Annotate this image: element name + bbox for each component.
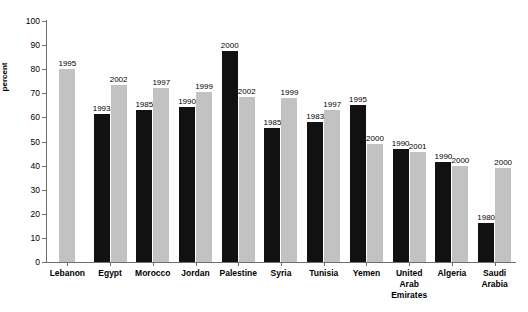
x-axis-category-label: Lebanon bbox=[46, 268, 89, 279]
bar-item[interactable]: 1990 bbox=[435, 21, 451, 262]
bar[interactable] bbox=[239, 97, 255, 262]
y-axis-tick-label: 70 bbox=[0, 88, 40, 98]
x-axis-category-label: Yemen bbox=[345, 268, 388, 279]
x-axis-category-label: Algeria bbox=[431, 268, 474, 279]
bar-group-bars: 20002002 bbox=[217, 21, 260, 262]
bar[interactable] bbox=[495, 168, 511, 262]
plot-area: 0102030405060708090100199519932002198519… bbox=[46, 21, 516, 262]
bar-group-bars: 19902001 bbox=[388, 21, 431, 262]
bar-item[interactable]: 2000 bbox=[452, 21, 468, 262]
x-axis-tick-mark bbox=[452, 262, 453, 266]
bar-group: 19902001 bbox=[388, 21, 431, 262]
bar-item[interactable]: 1993 bbox=[94, 21, 110, 262]
x-axis-category-label-line: United bbox=[388, 268, 431, 279]
bar-group-bars: 19902000 bbox=[431, 21, 474, 262]
x-axis-tick-mark bbox=[153, 262, 154, 266]
bar[interactable] bbox=[111, 85, 127, 262]
y-axis-tick-label: 80 bbox=[0, 64, 40, 74]
bar-year-label: 2002 bbox=[238, 87, 256, 96]
bar-year-label: 1997 bbox=[152, 78, 170, 87]
bar[interactable] bbox=[136, 110, 152, 262]
bar-item[interactable]: 2000 bbox=[367, 21, 383, 262]
y-axis-tick-label: 40 bbox=[0, 161, 40, 171]
bar-year-label: 1995 bbox=[349, 95, 367, 104]
bar[interactable] bbox=[179, 107, 195, 262]
bar-group: 19952000 bbox=[345, 21, 388, 262]
x-axis-tick-mark bbox=[281, 262, 282, 266]
x-axis-category-label: Morocco bbox=[131, 268, 174, 279]
y-axis-tick-label: 30 bbox=[0, 185, 40, 195]
bar-chart: percent 01020304050607080901001995199320… bbox=[0, 0, 528, 312]
x-axis-tick-mark bbox=[67, 262, 68, 266]
bar-year-label: 1993 bbox=[93, 104, 111, 113]
bar[interactable] bbox=[410, 152, 426, 262]
bar-item[interactable]: 2001 bbox=[410, 21, 426, 262]
x-axis-tick-mark bbox=[110, 262, 111, 266]
bar-year-label: 1990 bbox=[392, 139, 410, 148]
x-axis-category-label-line: Tunisia bbox=[302, 268, 345, 279]
bar-group: 19851999 bbox=[260, 21, 303, 262]
x-axis-category-label: SaudiArabia bbox=[473, 268, 516, 290]
bar-item[interactable]: 1995 bbox=[350, 21, 366, 262]
bar-item[interactable]: 2002 bbox=[111, 21, 127, 262]
bar-item[interactable]: 1997 bbox=[153, 21, 169, 262]
bar[interactable] bbox=[393, 149, 409, 262]
x-axis-category-label-line: Emirates bbox=[388, 290, 431, 301]
bar-group: 19901999 bbox=[174, 21, 217, 262]
bar[interactable] bbox=[324, 110, 340, 262]
bar-item[interactable]: 1999 bbox=[196, 21, 212, 262]
y-axis-tick-label: 50 bbox=[0, 137, 40, 147]
x-axis-tick-mark bbox=[238, 262, 239, 266]
bar-item[interactable]: 1997 bbox=[324, 21, 340, 262]
bar[interactable] bbox=[94, 114, 110, 262]
bar-year-label: 1980 bbox=[477, 213, 495, 222]
bar-year-label: 2000 bbox=[494, 158, 512, 167]
bar-year-label: 1995 bbox=[58, 59, 76, 68]
bar-item[interactable]: 1985 bbox=[136, 21, 152, 262]
x-axis-category-label-line: Jordan bbox=[174, 268, 217, 279]
x-axis-tick-mark bbox=[409, 262, 410, 266]
bar[interactable] bbox=[350, 105, 366, 262]
bar-item[interactable]: 2002 bbox=[239, 21, 255, 262]
x-axis-category-label: UnitedArabEmirates bbox=[388, 268, 431, 301]
bar[interactable] bbox=[222, 51, 238, 262]
y-axis-tick-label: 60 bbox=[0, 112, 40, 122]
bar-item[interactable]: 1990 bbox=[179, 21, 195, 262]
bar-item[interactable]: 1985 bbox=[264, 21, 280, 262]
bar-item[interactable]: 1980 bbox=[478, 21, 494, 262]
bar-year-label: 1983 bbox=[306, 112, 324, 121]
bar[interactable] bbox=[59, 69, 75, 262]
y-axis-tick-label: 10 bbox=[0, 233, 40, 243]
bar[interactable] bbox=[196, 92, 212, 262]
x-axis-category-label: Palestine bbox=[217, 268, 260, 279]
bar[interactable] bbox=[307, 122, 323, 262]
x-axis-category-label: Egypt bbox=[89, 268, 132, 279]
x-axis-category-label-line: Yemen bbox=[345, 268, 388, 279]
x-axis-category-label: Tunisia bbox=[302, 268, 345, 279]
bar-group: 19802000 bbox=[473, 21, 516, 262]
bar-item[interactable]: 1983 bbox=[307, 21, 323, 262]
x-axis-category-label-line: Morocco bbox=[131, 268, 174, 279]
y-axis-tick-label: 20 bbox=[0, 209, 40, 219]
bar-group-bars: 19901999 bbox=[174, 21, 217, 262]
bar-item[interactable]: 2000 bbox=[495, 21, 511, 262]
bar-item[interactable]: 2000 bbox=[222, 21, 238, 262]
bar[interactable] bbox=[478, 223, 494, 262]
bar-group-bars: 19952000 bbox=[345, 21, 388, 262]
x-axis-category-label-line: Algeria bbox=[431, 268, 474, 279]
bar[interactable] bbox=[452, 166, 468, 262]
bar[interactable] bbox=[435, 162, 451, 262]
bar[interactable] bbox=[153, 88, 169, 262]
bar-item[interactable]: 1999 bbox=[281, 21, 297, 262]
bar-year-label: 1999 bbox=[281, 88, 299, 97]
bar-item[interactable]: 1995 bbox=[59, 21, 75, 262]
y-axis-tick-label: 100 bbox=[0, 16, 40, 26]
x-axis-category-label-line: Lebanon bbox=[46, 268, 89, 279]
bar[interactable] bbox=[367, 144, 383, 262]
bar[interactable] bbox=[281, 98, 297, 262]
bar[interactable] bbox=[264, 128, 280, 262]
bar-item[interactable]: 1990 bbox=[393, 21, 409, 262]
x-axis-tick-mark bbox=[366, 262, 367, 266]
bar-group-bars: 19851999 bbox=[260, 21, 303, 262]
bar-year-label: 1997 bbox=[323, 100, 341, 109]
